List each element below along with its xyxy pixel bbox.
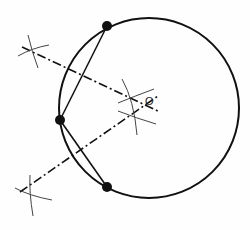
chord-bc [60, 120, 107, 187]
main-circle [59, 18, 239, 198]
construction-arc [28, 35, 38, 68]
point-a [102, 21, 112, 31]
diagram-svg: O [0, 0, 250, 230]
center-label: O [145, 95, 154, 107]
construction-arc [118, 111, 156, 124]
construction-arc [15, 188, 52, 200]
geometry-diagram: O [0, 0, 250, 230]
point-c [102, 182, 112, 192]
point-b [55, 115, 65, 125]
bisector-bc [20, 96, 158, 192]
construction-arc [122, 79, 137, 135]
